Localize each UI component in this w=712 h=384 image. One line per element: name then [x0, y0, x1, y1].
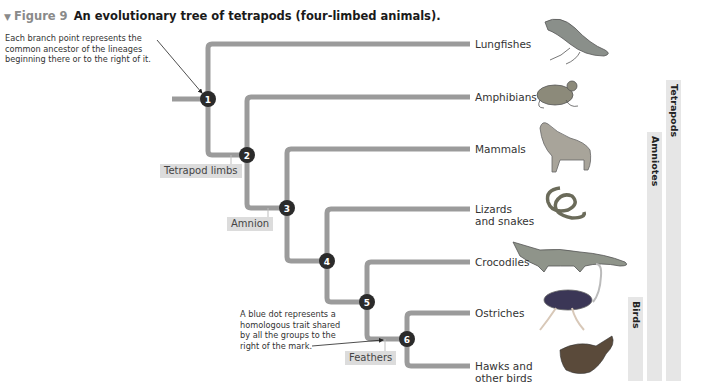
svg-text:6: 6 — [404, 335, 410, 345]
svg-text:3: 3 — [284, 204, 290, 214]
branch-node-3 — [287, 149, 470, 261]
taxon-lizards-and-snakes: Lizards and snakes — [475, 203, 534, 227]
snake-illustration — [548, 188, 585, 218]
taxon-ostriches: Ostriches — [475, 307, 524, 319]
node-2: 2 — [239, 147, 255, 163]
trait-tetrapod-limbs: Tetrapod limbs — [160, 164, 242, 178]
taxon-crocodiles: Crocodiles — [475, 256, 529, 268]
taxon-hawks-and-other-birds: Hawks and other birds — [475, 360, 533, 384]
branch-node-2 — [247, 97, 470, 208]
node-3: 3 — [279, 200, 295, 216]
svg-text:5: 5 — [364, 298, 370, 308]
crocodile-illustration — [513, 242, 627, 272]
node-6: 6 — [399, 331, 415, 347]
branch-note-arrow — [157, 40, 202, 93]
svg-text:2: 2 — [244, 151, 250, 161]
node-5: 5 — [359, 294, 375, 310]
branch-node-6 — [407, 313, 470, 366]
wolf-illustration — [540, 123, 591, 172]
trait-amnion: Amnion — [227, 217, 273, 231]
branch-node-4 — [327, 209, 470, 302]
ostrich-illustration — [540, 264, 601, 330]
branch-node-5 — [367, 262, 470, 339]
trait-feathers: Feathers — [345, 351, 396, 365]
svg-text:4: 4 — [324, 257, 330, 267]
blue-dot-note-arrow — [312, 340, 383, 346]
svg-text:1: 1 — [205, 95, 211, 105]
node-4: 4 — [319, 253, 335, 269]
taxon-mammals: Mammals — [475, 143, 526, 155]
taxon-lungfishes: Lungfishes — [475, 38, 531, 50]
hawk-illustration — [560, 336, 613, 374]
frog-illustration — [537, 81, 578, 108]
taxon-amphibians: Amphibians — [475, 91, 537, 103]
lungfish-illustration — [545, 19, 608, 64]
node-1: 1 — [200, 91, 216, 107]
